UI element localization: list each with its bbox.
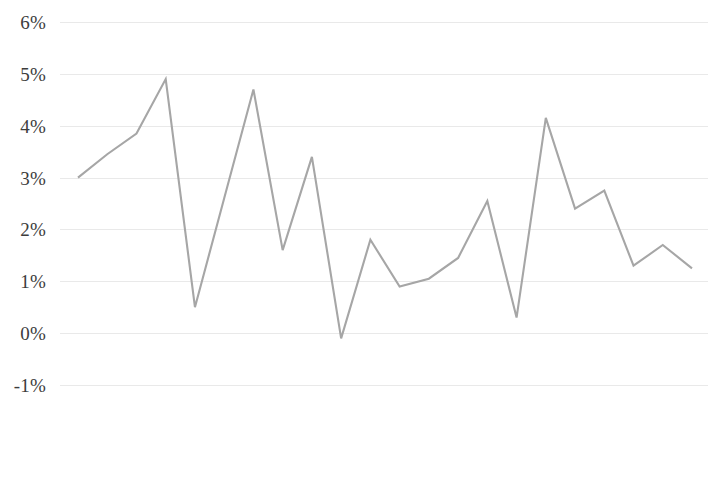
- x-axis: Jun-1996Jun-1997Jun-1998Jun-1999Jun-2000…: [0, 389, 708, 489]
- y-tick-label: 4%: [20, 116, 46, 135]
- y-tick-label: 1%: [20, 272, 46, 291]
- y-tick-label: 3%: [20, 168, 46, 187]
- plot-area: [60, 22, 708, 385]
- y-tick-label: 2%: [20, 220, 46, 239]
- series-line: [78, 79, 692, 338]
- y-tick-label: 5%: [20, 64, 46, 83]
- line-chart: 6%5%4%3%2%1%0%-1% Jun-1996Jun-1997Jun-19…: [0, 0, 708, 489]
- y-tick-label: 6%: [20, 13, 46, 32]
- gridline-neg1pct: [60, 385, 708, 386]
- y-tick-label: 0%: [20, 324, 46, 343]
- series-line-group: [60, 22, 708, 385]
